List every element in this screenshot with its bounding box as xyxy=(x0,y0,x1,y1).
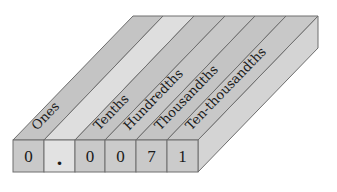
digit-ten-thousandths: 1 xyxy=(178,147,187,166)
digit-ones: 0 xyxy=(24,147,33,166)
digit-decimal-point: . xyxy=(57,145,63,170)
digit-hundredths: 0 xyxy=(116,147,125,166)
front-cells xyxy=(13,140,198,172)
digit-tenths: 0 xyxy=(86,147,95,166)
digit-thousandths: 7 xyxy=(147,147,156,166)
place-value-diagram: Ones Tenths Hundredths Thousandths Ten-t… xyxy=(0,0,337,192)
